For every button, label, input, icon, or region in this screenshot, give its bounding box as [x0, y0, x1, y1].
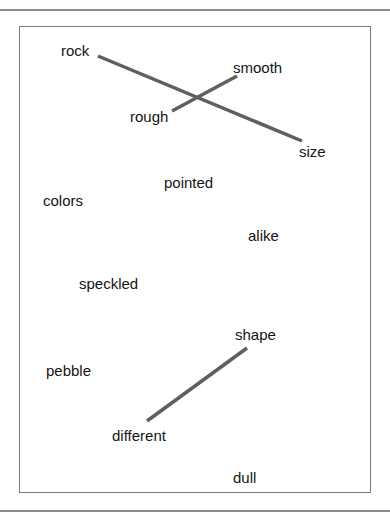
- word-speckled[interactable]: speckled: [79, 275, 138, 292]
- word-colors[interactable]: colors: [43, 192, 83, 209]
- word-pointed[interactable]: pointed: [164, 174, 213, 191]
- worksheet-panel: [19, 26, 371, 493]
- word-dull[interactable]: dull: [233, 469, 256, 486]
- word-size[interactable]: size: [299, 143, 326, 160]
- top-divider: [0, 9, 390, 11]
- word-rock[interactable]: rock: [61, 42, 89, 59]
- bottom-divider: [0, 510, 390, 512]
- word-shape[interactable]: shape: [235, 326, 276, 343]
- word-rough[interactable]: rough: [130, 108, 168, 125]
- word-smooth[interactable]: smooth: [233, 59, 282, 76]
- word-different[interactable]: different: [112, 427, 166, 444]
- word-alike[interactable]: alike: [248, 227, 279, 244]
- word-pebble[interactable]: pebble: [46, 362, 91, 379]
